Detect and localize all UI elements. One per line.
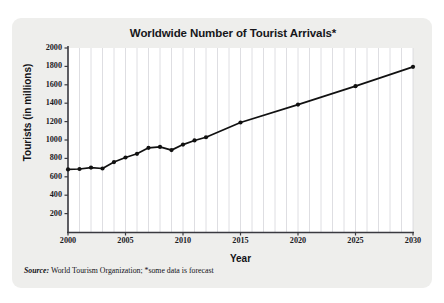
- x-tick-label: 2010: [161, 236, 205, 245]
- x-tick-label: 2000: [46, 236, 90, 245]
- source-text: World Tourism Organization; *some data i…: [51, 266, 214, 275]
- x-tick-label: 2005: [104, 236, 148, 245]
- x-axis-title: Year: [68, 253, 413, 264]
- x-tick-label: 2020: [276, 236, 320, 245]
- source-note: Source: World Tourism Organization; *som…: [24, 266, 214, 275]
- x-tick-label: 2025: [334, 236, 378, 245]
- plot-area-wrapper: 200018001600140012001000800600400200 200…: [0, 0, 444, 303]
- x-tick-label: 2015: [219, 236, 263, 245]
- x-tick-label: 2030: [391, 236, 435, 245]
- source-label: Source:: [24, 266, 49, 275]
- chart-figure: Worldwide Number of Tourist Arrivals* 20…: [0, 0, 444, 303]
- y-axis-title: Tourists (in millions): [22, 53, 33, 173]
